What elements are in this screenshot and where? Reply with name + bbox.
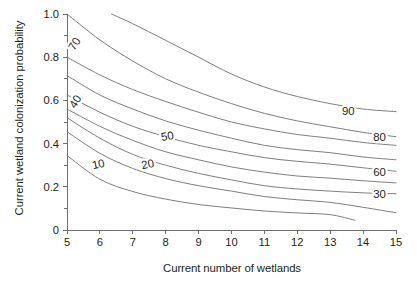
x-tick-label: 9 <box>195 236 201 248</box>
contour-lines-group <box>67 14 396 220</box>
x-tick-label: 13 <box>324 236 336 248</box>
contour-plot-figure: Current wetland colonization probability… <box>0 0 417 283</box>
contour-label-30: 30 <box>373 188 386 200</box>
x-tick-labels-group: 56789101112131415 <box>64 236 402 248</box>
axes-group <box>63 14 396 234</box>
plot-canvas: 56789101112131415 00.20.40.60.81.0 10102… <box>0 0 417 283</box>
contour-line-70 <box>67 57 396 145</box>
x-tick-label: 15 <box>390 236 402 248</box>
contour-label-20: 20 <box>140 157 155 171</box>
contour-labels-group: 101020203030404050506060707080809090 <box>66 35 386 199</box>
y-tick-label: 0.2 <box>43 181 59 193</box>
contour-label-80: 80 <box>373 131 386 143</box>
y-tick-labels-group: 00.20.40.60.81.0 <box>43 8 59 236</box>
y-tick-label: 1.0 <box>43 8 59 20</box>
contour-label-10: 10 <box>91 157 106 171</box>
contour-label-50: 50 <box>160 129 175 143</box>
x-tick-label: 8 <box>163 236 169 248</box>
x-tick-label: 10 <box>225 236 237 248</box>
y-tick-label: 0 <box>53 224 59 236</box>
x-tick-label: 12 <box>291 236 303 248</box>
contour-label-60: 60 <box>373 166 386 178</box>
x-tick-label: 11 <box>259 236 271 248</box>
contour-line-30 <box>67 118 396 194</box>
x-tick-label: 6 <box>97 236 103 248</box>
x-tick-label: 5 <box>64 236 70 248</box>
y-tick-label: 0.6 <box>43 94 59 106</box>
contour-line-20 <box>67 132 396 213</box>
y-tick-label: 0.4 <box>43 138 59 150</box>
x-tick-label: 7 <box>130 236 136 248</box>
contour-label-90: 90 <box>342 105 355 117</box>
contour-line-80 <box>67 14 396 137</box>
contour-label-40: 40 <box>67 93 84 110</box>
contour-line-90 <box>111 14 396 112</box>
contour-label-70: 70 <box>66 35 83 52</box>
x-tick-label: 14 <box>357 236 369 248</box>
y-tick-label: 0.8 <box>43 51 59 63</box>
